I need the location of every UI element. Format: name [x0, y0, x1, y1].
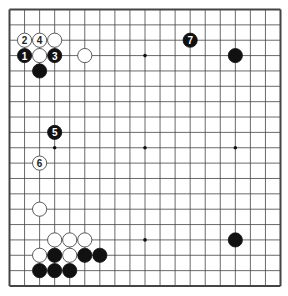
black-stone: 3 — [48, 48, 62, 62]
white-stone: 6 — [33, 156, 47, 170]
star-point — [143, 146, 147, 150]
black-stone — [228, 48, 242, 62]
white-stone: 4 — [33, 33, 47, 47]
move-number: 1 — [22, 51, 28, 62]
black-stone — [33, 64, 47, 78]
white-stone — [48, 233, 62, 247]
white-stone — [33, 248, 47, 262]
star-point — [143, 238, 147, 242]
move-number: 6 — [37, 158, 43, 169]
star-point — [53, 146, 57, 150]
white-stone — [63, 233, 77, 247]
move-number: 5 — [52, 127, 58, 138]
white-stone — [48, 33, 62, 47]
black-stone — [48, 264, 62, 278]
move-number: 4 — [37, 35, 43, 46]
black-stone: 1 — [17, 48, 31, 62]
black-stone — [78, 248, 92, 262]
white-stone — [33, 202, 47, 216]
move-number: 3 — [52, 51, 58, 62]
black-stone — [48, 248, 62, 262]
black-stone: 7 — [183, 33, 197, 47]
move-number: 7 — [187, 35, 193, 46]
star-point — [234, 146, 238, 150]
white-stone: 2 — [17, 33, 31, 47]
move-number: 2 — [22, 35, 28, 46]
white-stone — [33, 48, 47, 62]
white-stone — [78, 233, 92, 247]
black-stone: 5 — [48, 125, 62, 139]
black-stone — [63, 264, 77, 278]
black-stone — [33, 264, 47, 278]
go-board: 1234567 — [0, 0, 288, 296]
star-point — [143, 54, 147, 58]
white-stone — [78, 48, 92, 62]
black-stone — [93, 248, 107, 262]
black-stone — [228, 233, 242, 247]
white-stone — [63, 248, 77, 262]
